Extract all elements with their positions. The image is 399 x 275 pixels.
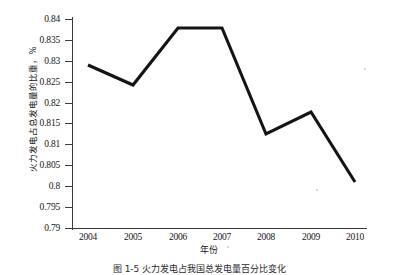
figure-container: 0.84 0.835 0.83 0.825 0.82 0.815 0.81 0.… xyxy=(0,0,399,275)
scan-speck xyxy=(364,68,366,70)
series-line-chart xyxy=(0,0,399,275)
data-series-line xyxy=(88,28,355,182)
figure-caption: 图 1-5 火力发电占我国总发电量百分比变化 xyxy=(0,264,399,275)
scan-speck xyxy=(316,189,318,191)
scan-speck xyxy=(227,246,229,248)
